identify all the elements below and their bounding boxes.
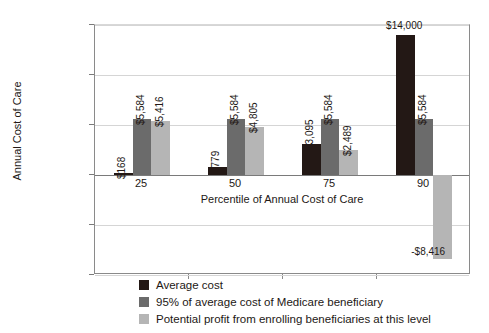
bar-value-label: $5,584 [229,95,240,126]
plot-area [94,24,470,274]
bar-value-label: $3,095 [304,119,315,150]
bar [321,119,340,175]
bar-value-label: -$8,416 [386,246,445,257]
bar-value-label: $5,416 [154,96,165,127]
legend-swatch-icon [139,280,149,290]
bar [245,127,264,175]
bar-value-label: $4,805 [248,102,259,133]
y-axis-tick-mark [89,274,94,275]
bar [151,121,170,175]
legend-label: Average cost [156,279,223,291]
legend-item: Potential profit from enrolling benefici… [139,310,431,327]
legend-swatch-icon [139,297,149,307]
bar-value-label: $5,584 [323,95,334,126]
bar-value-label: $5,584 [417,95,428,126]
bar-value-label: $14,000 [375,20,434,31]
bar [396,35,415,175]
legend-label: 95% of average cost of Medicare benefici… [156,296,383,308]
legend-item: 95% of average cost of Medicare benefici… [139,293,431,310]
legend-swatch-icon [139,314,149,324]
bar [227,119,246,175]
bar [133,119,152,175]
legend-item: Average cost [139,276,431,293]
legend: Average cost95% of average cost of Medic… [139,276,431,327]
bar [415,119,434,175]
bar-value-label: $2,489 [342,126,353,157]
y-axis-title: Annual Cost of Care [11,51,23,211]
zero-axis-line [95,175,469,176]
bar-value-label: $779 [210,151,221,173]
legend-label: Potential profit from enrolling benefici… [156,313,431,325]
bar-chart: Annual Cost of Care Percentile of Annual… [0,0,489,333]
bar-value-label: $168 [116,157,127,179]
gridline [95,225,469,226]
bar-value-label: $5,584 [135,95,146,126]
